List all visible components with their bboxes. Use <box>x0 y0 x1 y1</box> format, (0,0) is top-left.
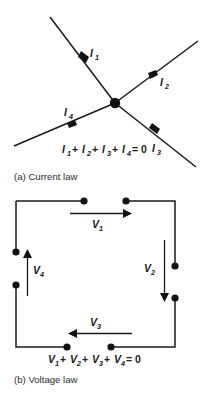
arrowhead-i4 <box>67 120 77 128</box>
label-v2-subscript: 2 <box>150 268 155 277</box>
eq-a-sym-2: I <box>82 143 86 155</box>
arrowhead-v2 <box>160 293 169 302</box>
label-i4-symbol: I <box>64 106 68 118</box>
arrow-v4 <box>23 249 32 296</box>
caption-voltage-law: (b) Voltage law <box>14 374 78 385</box>
junction-node <box>110 98 120 108</box>
panel-current-law: I 1 I 2 I 3 I 4 I 1 + I <box>14 17 198 182</box>
eq-a-sym-1: I <box>62 143 66 155</box>
label-i2: I 2 <box>160 76 169 91</box>
caption-current-law: (a) Current law <box>14 171 78 182</box>
eq-b-op-3: + <box>104 353 110 365</box>
eq-a-sym-4: I <box>122 143 126 155</box>
terminal-dot-top-left <box>80 197 87 204</box>
label-v3-subscript: 3 <box>97 322 101 331</box>
label-i1: I 1 <box>90 47 99 62</box>
eq-a-sub-3: 3 <box>107 149 111 158</box>
kirchhoff-laws-figure: I 1 I 2 I 3 I 4 I 1 + I <box>0 0 205 402</box>
label-v2: V 2 <box>144 262 155 277</box>
label-i3-subscript: 3 <box>157 148 161 157</box>
arrowhead-v1 <box>123 209 132 218</box>
label-i3-symbol: I <box>152 142 156 154</box>
eq-a-sym-3: I <box>102 143 106 155</box>
label-v1: V 1 <box>92 218 103 233</box>
label-i4-subscript: 4 <box>68 112 73 121</box>
loop-segment-left-lower <box>16 285 67 347</box>
eq-a-op-3: + <box>112 143 118 155</box>
arrowhead-i3 <box>149 123 160 134</box>
label-v4-subscript: 4 <box>39 270 44 279</box>
eq-b-sub-4: 4 <box>120 359 125 368</box>
equation-voltage-law: V 1 + V 2 + V 3 + V 4 = 0 <box>48 353 141 368</box>
terminal-dot-top-right <box>122 197 129 204</box>
terminal-dot-bottom-right <box>107 343 114 350</box>
eq-a-op-4: = 0 <box>132 143 147 155</box>
label-i4: I 4 <box>64 106 73 121</box>
label-i1-symbol: I <box>90 47 94 59</box>
eq-b-sub-2: 2 <box>76 359 81 368</box>
arrowhead-v4 <box>23 249 32 258</box>
eq-a-sub-1: 1 <box>67 149 71 158</box>
eq-b-sub-3: 3 <box>99 359 103 368</box>
terminal-dot-right-lower <box>171 294 178 301</box>
eq-a-op-2: + <box>92 143 98 155</box>
loop-segment-top-right <box>126 201 175 266</box>
label-i1-subscript: 1 <box>95 53 99 62</box>
arrowhead-v3 <box>68 329 77 338</box>
eq-b-op-1: + <box>60 353 66 365</box>
terminal-dot-left-upper <box>12 248 19 255</box>
terminal-dot-left-lower <box>12 281 19 288</box>
figure-canvas: I 1 I 2 I 3 I 4 I 1 + I <box>0 0 205 402</box>
label-v1-subscript: 1 <box>99 224 103 233</box>
eq-b-op-2: + <box>82 353 88 365</box>
eq-b-sub-1: 1 <box>55 359 59 368</box>
arrow-v1 <box>70 209 132 218</box>
eq-b-op-4: = 0 <box>126 353 141 365</box>
loop-segment-right-lower <box>111 298 175 347</box>
equation-current-law: I 1 + I 2 + I 3 + I 4 = 0 <box>62 143 147 158</box>
label-i2-symbol: I <box>160 76 164 88</box>
terminal-dot-right-upper <box>171 262 178 269</box>
arrow-v2 <box>160 240 169 302</box>
label-v3: V 3 <box>90 316 101 331</box>
terminal-dot-bottom-left <box>63 343 70 350</box>
label-i2-subscript: 2 <box>164 82 169 91</box>
panel-voltage-law: V 1 V 2 V 3 <box>12 197 178 385</box>
eq-a-sub-4: 4 <box>126 149 131 158</box>
eq-a-sub-2: 2 <box>86 149 91 158</box>
label-v4: V 4 <box>33 264 44 279</box>
eq-a-op-1: + <box>72 143 78 155</box>
label-i3: I 3 <box>152 142 161 157</box>
